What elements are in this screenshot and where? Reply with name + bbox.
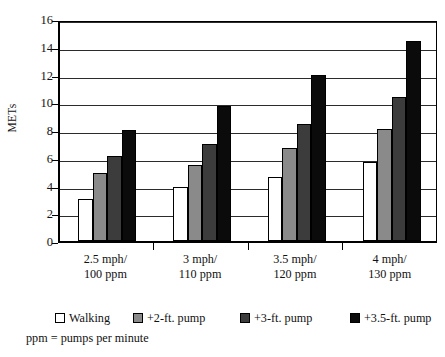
legend-item-2-ft-pump[interactable]: +2-ft. pump bbox=[133, 311, 205, 326]
bar-group bbox=[363, 22, 421, 241]
bar bbox=[93, 173, 108, 241]
legend-swatch-icon bbox=[55, 313, 65, 323]
y-tick-label: 10 bbox=[13, 97, 53, 110]
bar-chart-figure: METs 1614121086420 2.5 mph/100 ppm3 mph/… bbox=[0, 0, 445, 357]
bar bbox=[377, 129, 392, 241]
bar bbox=[311, 75, 326, 242]
legend-swatch-icon bbox=[133, 313, 143, 323]
x-category-label-line: 110 ppm bbox=[148, 267, 252, 282]
legend-label: +2-ft. pump bbox=[147, 311, 205, 326]
legend-swatch-icon bbox=[350, 313, 360, 323]
bar bbox=[217, 106, 232, 241]
plot-area bbox=[58, 21, 437, 243]
bar bbox=[392, 97, 407, 241]
y-tick-label: 8 bbox=[13, 125, 53, 138]
x-category-label-line: 100 ppm bbox=[53, 267, 157, 282]
x-category-label-line: 3.5 mph/ bbox=[243, 252, 347, 267]
x-category-label-line: 3 mph/ bbox=[148, 252, 252, 267]
legend: Walking+2-ft. pump+3-ft. pump+3.5-ft. pu… bbox=[55, 309, 445, 327]
x-category-label-line: 130 ppm bbox=[338, 267, 442, 282]
bar bbox=[173, 187, 188, 241]
x-tick-mark bbox=[248, 243, 249, 250]
bar-group bbox=[173, 22, 231, 241]
x-category-label-line: 4 mph/ bbox=[338, 252, 442, 267]
bar bbox=[122, 130, 137, 241]
x-category-label-line: 2.5 mph/ bbox=[53, 252, 157, 267]
x-category-label: 3 mph/110 ppm bbox=[148, 252, 252, 281]
bar bbox=[78, 199, 93, 241]
y-tick-label: 16 bbox=[13, 14, 53, 27]
legend-label: Walking bbox=[69, 311, 110, 326]
legend-item-3-ft-pump[interactable]: +3-ft. pump bbox=[240, 311, 312, 326]
legend-swatch-icon bbox=[240, 313, 250, 323]
bar bbox=[188, 165, 203, 241]
x-category-label: 3.5 mph/120 ppm bbox=[243, 252, 347, 281]
bar bbox=[282, 148, 297, 241]
x-tick-mark bbox=[153, 243, 154, 250]
bar-group bbox=[78, 22, 136, 241]
bar bbox=[406, 41, 421, 241]
y-tick-label: 6 bbox=[13, 153, 53, 166]
bar bbox=[107, 156, 122, 241]
bar-group bbox=[268, 22, 326, 241]
legend-item-walking[interactable]: Walking bbox=[55, 311, 110, 326]
y-tick-mark bbox=[52, 243, 58, 244]
x-category-label: 4 mph/130 ppm bbox=[338, 252, 442, 281]
bar bbox=[297, 124, 312, 241]
bar bbox=[202, 144, 217, 241]
chart-title-cropped bbox=[0, 0, 445, 3]
legend-note: ppm = pumps per minute bbox=[26, 331, 149, 346]
bar bbox=[363, 162, 378, 241]
y-tick-label: 0 bbox=[13, 236, 53, 249]
y-tick-label: 4 bbox=[13, 181, 53, 194]
x-tick-mark bbox=[342, 243, 343, 250]
x-category-label: 2.5 mph/100 ppm bbox=[53, 252, 157, 281]
y-tick-label: 2 bbox=[13, 208, 53, 221]
x-category-label-line: 120 ppm bbox=[243, 267, 347, 282]
legend-label: +3-ft. pump bbox=[254, 311, 312, 326]
legend-item-3-5-ft-pump[interactable]: +3.5-ft. pump bbox=[350, 311, 431, 326]
y-tick-label: 12 bbox=[13, 70, 53, 83]
legend-label: +3.5-ft. pump bbox=[364, 311, 431, 326]
bar bbox=[268, 177, 283, 241]
y-tick-label: 14 bbox=[13, 42, 53, 55]
